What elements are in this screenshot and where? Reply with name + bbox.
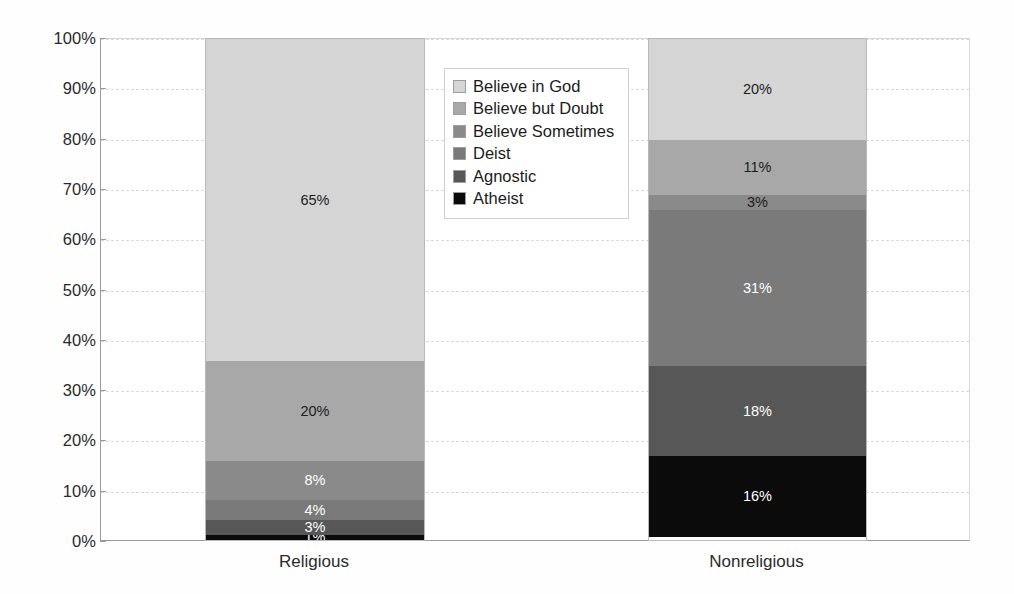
y-axis-tick-mark: [100, 239, 106, 240]
legend-swatch-icon: [453, 125, 466, 138]
y-axis-tick-mark: [100, 38, 106, 39]
legend-swatch-icon: [453, 80, 466, 93]
segment-value-label: 18%: [743, 404, 772, 419]
bar-segment-believe-but-doubt[interactable]: 11%: [649, 140, 866, 195]
y-axis-tick-label: 50%: [4, 280, 96, 299]
stacked-bar-religious[interactable]: 65%20%8%4%3%1%: [206, 39, 424, 540]
legend-swatch-icon: [453, 170, 466, 183]
bar-segment-agnostic[interactable]: 18%: [649, 366, 866, 457]
bar-segment-deist[interactable]: 4%: [206, 500, 424, 520]
stacked-bar-nonreligious[interactable]: 20%11%3%31%18%16%: [649, 39, 866, 540]
legend-swatch-icon: [453, 192, 466, 205]
y-axis-tick-mark: [100, 88, 106, 89]
legend-item-label: Deist: [473, 144, 511, 163]
legend-item[interactable]: Believe Sometimes: [453, 120, 614, 143]
y-axis-tick-label: 40%: [4, 330, 96, 349]
chart-legend: Believe in GodBelieve but DoubtBelieve S…: [444, 68, 629, 219]
segment-value-label: 20%: [743, 82, 772, 97]
legend-swatch-icon: [453, 147, 466, 160]
y-axis-tick-mark: [100, 340, 106, 341]
bar-segment-believe-in-god[interactable]: 20%: [649, 39, 866, 140]
legend-item[interactable]: Deist: [453, 143, 614, 166]
y-axis-tick-mark: [100, 139, 106, 140]
y-axis-tick-mark: [100, 440, 106, 441]
segment-value-label: 8%: [305, 473, 326, 488]
bar-segment-believe-sometimes[interactable]: 8%: [206, 461, 424, 501]
y-axis-tick-mark: [100, 290, 106, 291]
legend-item-label: Believe in God: [473, 77, 580, 96]
y-axis-tick-label: 70%: [4, 179, 96, 198]
segment-value-label: 65%: [300, 193, 329, 208]
segment-value-label: 1%: [305, 535, 326, 540]
legend-item-label: Believe Sometimes: [473, 122, 614, 141]
y-axis-tick-label: 60%: [4, 230, 96, 249]
x-axis-category-label: Nonreligious: [648, 552, 865, 572]
y-axis-tick-mark: [100, 390, 106, 391]
y-axis: 0%10%20%30%40%50%60%70%80%90%100%: [0, 38, 96, 541]
legend-item-label: Agnostic: [473, 167, 536, 186]
y-axis-tick-label: 80%: [4, 129, 96, 148]
legend-item[interactable]: Believe but Doubt: [453, 98, 614, 121]
segment-value-label: 3%: [305, 520, 326, 535]
bar-segment-believe-sometimes[interactable]: 3%: [649, 195, 866, 210]
legend-item[interactable]: Agnostic: [453, 165, 614, 188]
segment-value-label: 3%: [747, 195, 768, 210]
segment-value-label: 16%: [743, 489, 772, 504]
x-axis-category-label: Religious: [205, 552, 423, 572]
y-axis-tick-mark: [100, 491, 106, 492]
y-axis-tick-label: 0%: [4, 532, 96, 551]
segment-value-label: 11%: [744, 160, 772, 175]
legend-item-label: Believe but Doubt: [473, 99, 603, 118]
bar-segment-deist[interactable]: 31%: [649, 210, 866, 366]
segment-value-label: 20%: [300, 404, 329, 419]
legend-item[interactable]: Atheist: [453, 188, 614, 211]
y-axis-tick-mark: [100, 541, 106, 542]
bar-segment-believe-but-doubt[interactable]: 20%: [206, 361, 424, 460]
y-axis-tick-label: 90%: [4, 79, 96, 98]
y-axis-tick-label: 100%: [4, 29, 96, 48]
bar-segment-atheist[interactable]: 1%: [206, 535, 424, 540]
y-axis-tick-mark: [100, 189, 106, 190]
y-axis-tick-label: 20%: [4, 431, 96, 450]
segment-value-label: 4%: [305, 503, 326, 518]
y-axis-tick-label: 30%: [4, 381, 96, 400]
legend-item-label: Atheist: [473, 189, 523, 208]
bar-segment-believe-in-god[interactable]: 65%: [206, 39, 424, 361]
legend-swatch-icon: [453, 102, 466, 115]
y-axis-tick-label: 10%: [4, 481, 96, 500]
stacked-bar-chart: 0%10%20%30%40%50%60%70%80%90%100% 65%20%…: [0, 0, 1014, 594]
segment-value-label: 31%: [743, 281, 772, 296]
bar-segment-atheist[interactable]: 16%: [649, 456, 866, 536]
legend-item[interactable]: Believe in God: [453, 75, 614, 98]
bar-segment-agnostic[interactable]: 3%: [206, 520, 424, 535]
